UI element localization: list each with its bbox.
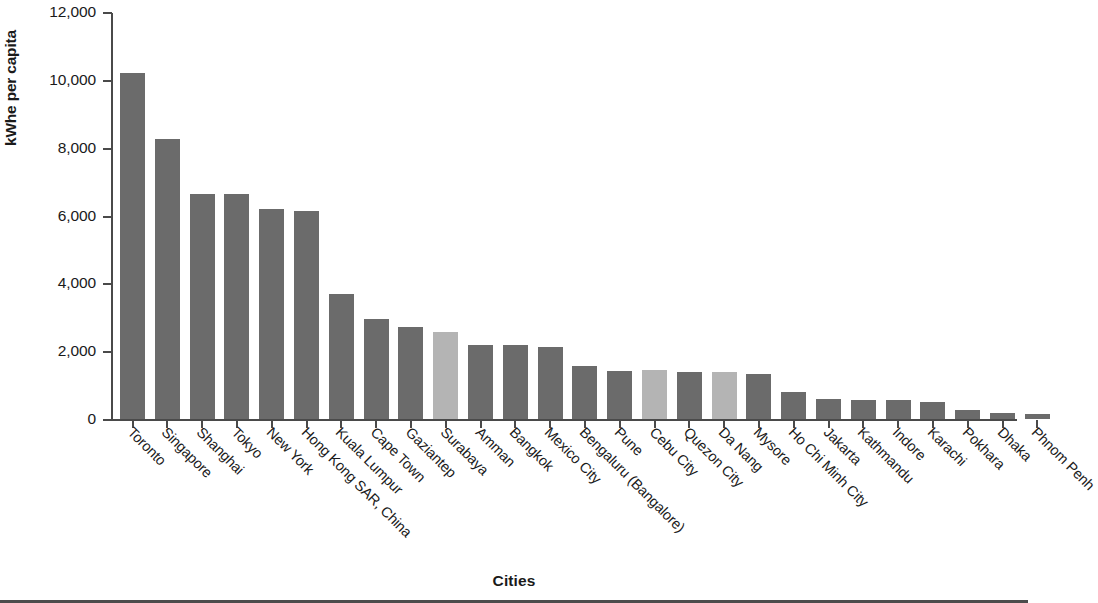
y-axis-tick-label: 4,000 [12, 274, 96, 292]
bar [329, 294, 354, 419]
y-axis-tick-label: 0 [12, 410, 96, 428]
bar [433, 332, 458, 420]
bar [746, 374, 771, 419]
bar [398, 327, 423, 419]
bar [364, 319, 389, 419]
bar [190, 194, 215, 419]
bar [1025, 414, 1050, 419]
bar [851, 400, 876, 419]
bar [607, 371, 632, 419]
bar [155, 139, 180, 419]
bar [990, 413, 1015, 419]
y-axis-tick [103, 419, 112, 421]
bar [677, 372, 702, 419]
y-axis-tick-label: 8,000 [12, 139, 96, 157]
bar [259, 209, 284, 419]
bar [886, 400, 911, 419]
plot-area [112, 13, 1016, 420]
y-axis-tick [103, 283, 112, 285]
bar [920, 402, 945, 419]
bar [816, 399, 841, 419]
bar [955, 410, 980, 419]
y-axis-tick [103, 148, 112, 150]
y-axis-tick-label: 2,000 [12, 342, 96, 360]
y-axis-tick-label: 12,000 [12, 3, 96, 21]
bar [572, 366, 597, 419]
bar [294, 211, 319, 419]
bar [781, 392, 806, 419]
bar [503, 345, 528, 419]
y-axis-tick-label: 6,000 [12, 207, 96, 225]
x-axis-title: Cities [0, 572, 1028, 590]
bar [224, 194, 249, 419]
bar [538, 347, 563, 419]
y-axis-tick-label: 10,000 [12, 71, 96, 89]
y-axis-tick [103, 216, 112, 218]
bar [120, 73, 145, 419]
bar [642, 370, 667, 419]
bar [712, 372, 737, 419]
y-axis-tick [103, 80, 112, 82]
x-axis-category-label: Phnom Penh [1029, 424, 1098, 493]
bar [468, 345, 493, 419]
x-axis-category-labels: TorontoSingaporeShanghaiTokyoNew YorkHon… [112, 424, 1022, 569]
y-axis-tick [103, 351, 112, 353]
y-axis-tick [103, 12, 112, 14]
x-axis-line [111, 419, 1017, 421]
